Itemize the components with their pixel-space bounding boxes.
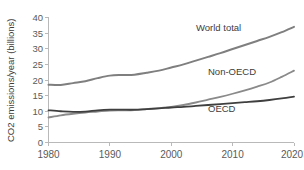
series-label-oecd: OECD xyxy=(208,103,236,114)
y-tick-label-15: 15 xyxy=(32,90,43,101)
y-tick-label-5: 5 xyxy=(38,121,43,132)
x-tick-label-2000: 2000 xyxy=(160,149,183,160)
y-tick-label-30: 30 xyxy=(32,43,43,54)
y-tick-label-40: 40 xyxy=(32,12,43,23)
x-axis-tick-labels: 1980 1990 2000 2010 2020 xyxy=(37,149,303,160)
y-axis-title-group: CO2 emissions/year (billions) xyxy=(5,18,16,142)
series-lines xyxy=(49,27,295,118)
series-label-non-oecd: Non-OECD xyxy=(208,66,256,77)
co2-emissions-line-chart: CO2 emissions/year (billions) 40 35 30 2… xyxy=(0,0,304,170)
y-axis-tick-labels: 40 35 30 25 20 15 10 5 0 xyxy=(32,12,43,148)
x-tick-label-1980: 1980 xyxy=(37,149,60,160)
y-tick-label-35: 35 xyxy=(32,28,43,39)
x-tick-label-2010: 2010 xyxy=(221,149,244,160)
y-tick-label-10: 10 xyxy=(32,106,43,117)
series-label-world-total: World total xyxy=(196,22,241,33)
series-line-oecd xyxy=(49,97,295,112)
series-line-non-oecd xyxy=(49,71,295,118)
y-tick-label-25: 25 xyxy=(32,59,43,70)
x-axis xyxy=(49,143,295,147)
chart-canvas: CO2 emissions/year (billions) 40 35 30 2… xyxy=(0,0,304,170)
x-tick-label-1990: 1990 xyxy=(99,149,122,160)
series-line-world-total xyxy=(49,27,295,85)
y-axis xyxy=(45,17,49,143)
y-tick-label-20: 20 xyxy=(32,75,43,86)
y-tick-label-0: 0 xyxy=(38,137,43,148)
y-axis-title: CO2 emissions/year (billions) xyxy=(5,18,16,142)
x-tick-label-2020: 2020 xyxy=(281,149,304,160)
